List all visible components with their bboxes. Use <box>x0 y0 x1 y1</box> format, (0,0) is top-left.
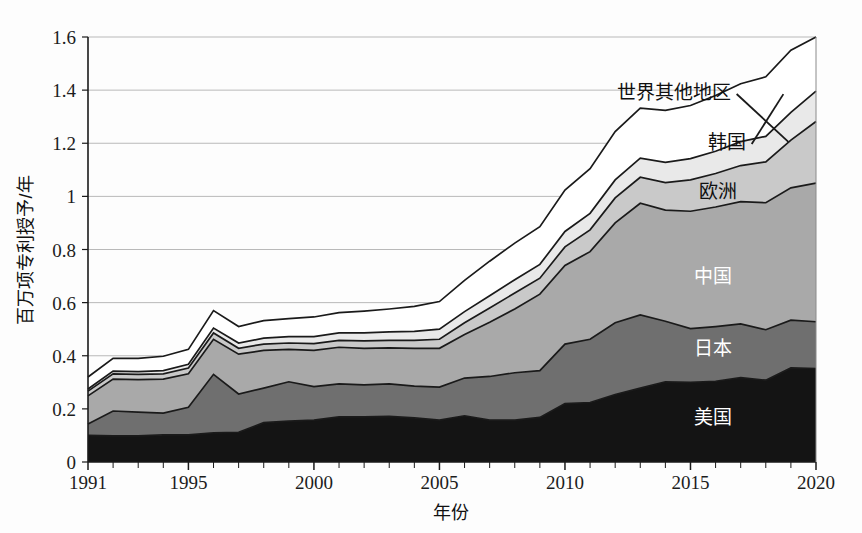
series-label: 日本 <box>694 338 732 359</box>
y-tick-label: 1 <box>67 186 77 207</box>
y-axis-title: 百万项专利授予/年 <box>16 175 36 324</box>
chart-canvas: 00.20.40.60.811.21.41.6 1991199520002005… <box>0 0 862 533</box>
x-tick-label: 2020 <box>797 472 835 493</box>
y-tick-label: 0 <box>67 452 77 473</box>
x-tick-labels: 1991199520002005201020152020 <box>69 472 835 493</box>
y-tick-label: 1.2 <box>52 133 76 154</box>
series-label: 美国 <box>694 407 732 428</box>
y-tick-label: 0.4 <box>52 346 76 367</box>
y-tick-label: 1.4 <box>52 80 76 101</box>
series-label: 韩国 <box>708 132 746 153</box>
series-label: 欧洲 <box>699 181 737 202</box>
y-tick-label: 0.2 <box>52 399 76 420</box>
y-tick-labels: 00.20.40.60.811.21.41.6 <box>52 27 76 473</box>
x-tick-label: 1995 <box>169 472 207 493</box>
x-tick-label: 2005 <box>420 472 458 493</box>
series-label: 世界其他地区 <box>617 82 731 103</box>
x-tick-label: 2015 <box>671 472 709 493</box>
x-tick-label: 2010 <box>546 472 584 493</box>
x-axis-title: 年份 <box>433 503 469 523</box>
y-tick-label: 0.6 <box>52 293 76 314</box>
series-label: 中国 <box>694 266 732 287</box>
x-tick-label: 2000 <box>295 472 333 493</box>
x-tick-label: 1991 <box>69 472 107 493</box>
stacked-area-chart-figure: 00.20.40.60.811.21.41.6 1991199520002005… <box>0 0 862 533</box>
y-tick-label: 1.6 <box>52 27 76 48</box>
y-tick-label: 0.8 <box>52 240 76 261</box>
